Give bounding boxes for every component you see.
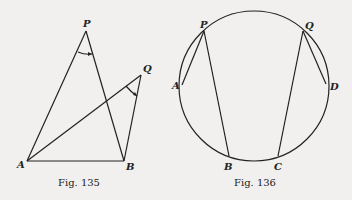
label-p: P	[199, 19, 208, 30]
caption-fig-136: Fig. 136	[234, 177, 276, 188]
segment-qb	[124, 75, 141, 161]
label-a: A	[171, 80, 180, 91]
segment-qc	[278, 31, 303, 156]
label-d: D	[329, 81, 339, 92]
segment-pa	[27, 31, 86, 161]
angle-arrow-p-icon	[88, 52, 92, 56]
segment-pa	[182, 31, 204, 85]
label-q: Q	[143, 63, 152, 74]
segment-qd	[303, 31, 326, 84]
segment-pb	[86, 31, 124, 161]
fig-136: P Q A D B C Fig. 136	[171, 11, 339, 188]
caption-fig-135: Fig. 135	[58, 177, 100, 188]
figure-canvas: P Q A B Fig. 135 P Q A D B C Fig. 136	[0, 0, 352, 200]
label-b: B	[223, 161, 232, 172]
label-a: A	[16, 159, 25, 170]
fig-135: P Q A B Fig. 135	[16, 18, 152, 188]
label-b: B	[125, 161, 134, 172]
segment-pb	[204, 31, 229, 156]
segment-qa	[27, 75, 141, 161]
label-p: P	[82, 18, 91, 29]
label-q: Q	[305, 20, 314, 31]
label-c: C	[274, 161, 282, 172]
circle	[179, 11, 329, 161]
